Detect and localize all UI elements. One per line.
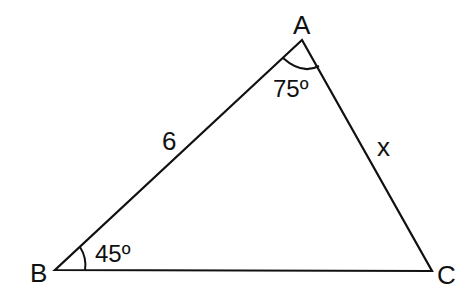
side-label-ac: x [377,132,390,162]
angle-label-a: 75º [273,75,309,102]
triangle-diagram: A B C 6 x 75º 45º [0,0,468,296]
vertex-label-b: B [30,258,47,288]
vertex-label-a: A [293,10,311,40]
angle-label-b: 45º [95,240,131,267]
angle-arc-b [80,247,85,270]
side-label-ab: 6 [162,126,176,156]
vertex-label-c: C [437,260,456,290]
triangle-abc [55,40,432,271]
